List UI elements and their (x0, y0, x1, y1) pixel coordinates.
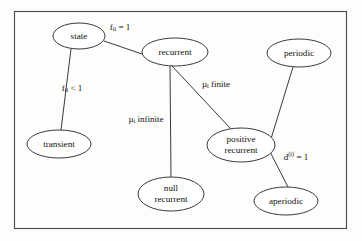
edge-state-recurrent (104, 41, 145, 55)
edge-label-d-i-eq-1: d(i) = 1 (284, 150, 308, 162)
edge-recurrent-null-recurrent (170, 66, 171, 177)
node-state-label-line1: state (71, 31, 88, 41)
node-aperiodic-label-line1: aperiodic (269, 196, 303, 206)
node-periodic[interactable]: periodic (267, 39, 331, 67)
node-aperiodic[interactable]: aperiodic (254, 187, 318, 215)
node-transient[interactable]: transient (27, 130, 91, 158)
node-positive-recurrent[interactable]: positive recurrent (207, 128, 275, 162)
edge-label-mu-i-infinite: µi infinite (128, 114, 163, 125)
node-null-recurrent-label-line2: recurrent (154, 194, 188, 204)
node-recurrent[interactable]: recurrent (142, 38, 208, 66)
edge-label-f-ii-eq-1: fii = 1 (110, 22, 131, 33)
node-group: state recurrent periodic transient null … (27, 23, 331, 215)
edge-label-mu-i-finite: µi finite (202, 79, 230, 90)
figure-canvas: state recurrent periodic transient null … (0, 0, 362, 241)
node-positive-recurrent-label-line2: recurrent (224, 145, 258, 155)
edge-recurrent-positive-recurrent (172, 66, 231, 129)
node-null-recurrent-label-line1: null (164, 183, 179, 193)
node-recurrent-label-line1: recurrent (158, 47, 192, 57)
node-periodic-label-line1: periodic (284, 48, 314, 58)
node-state[interactable]: state (53, 23, 105, 49)
node-transient-label-line1: transient (43, 139, 75, 149)
node-positive-recurrent-label-line1: positive (226, 134, 255, 144)
node-null-recurrent[interactable]: null recurrent (138, 177, 204, 211)
edge-label-f-ii-lt-1: fii < 1 (62, 83, 83, 94)
diagram-svg: state recurrent periodic transient null … (0, 0, 362, 241)
